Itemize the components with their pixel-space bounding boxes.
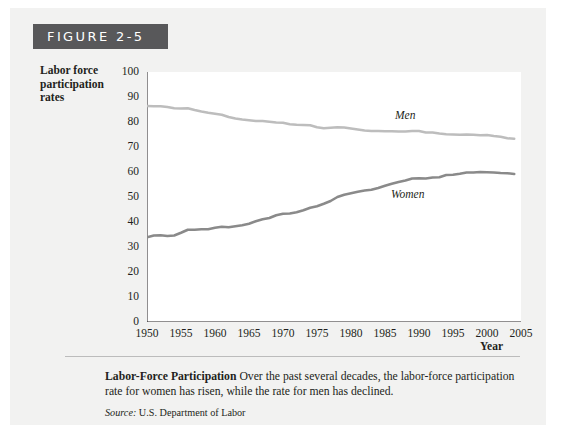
series-label-women: Women [391, 188, 424, 200]
caption-source: Source: U.S. Department of Labor [105, 407, 525, 418]
caption-source-value: U.S. Department of Labor [139, 407, 246, 418]
caption-text: Labor-Force Participation Over the past … [105, 369, 525, 399]
figure-number-label: FIGURE 2-5 [47, 29, 145, 44]
y-tick-label: 100 [105, 65, 139, 77]
y-tick-label: 70 [105, 140, 139, 152]
figure-panel: FIGURE 2-5 Labor force participation rat… [10, 8, 546, 425]
y-tick-label: 20 [105, 265, 139, 277]
y-tick-label: 60 [105, 165, 139, 177]
y-axis-title: Labor force participation rates [40, 64, 112, 105]
y-tick-label: 50 [105, 190, 139, 202]
y-tick-label: 80 [105, 115, 139, 127]
chart-plot-frame [147, 72, 521, 322]
x-tick-label: 2005 [501, 327, 541, 339]
y-tick-label: 40 [105, 215, 139, 227]
y-tick-label: 10 [105, 290, 139, 302]
figure-header-bar: FIGURE 2-5 [33, 24, 168, 49]
y-tick-label: 0 [105, 315, 139, 327]
caption-divider [65, 356, 520, 357]
y-tick-label: 90 [105, 90, 139, 102]
caption-title: Labor-Force Participation [105, 370, 236, 383]
series-label-men: Men [395, 109, 415, 121]
chart-line-series-svg [147, 72, 521, 322]
series-line-women [147, 172, 514, 237]
caption-source-label: Source: [105, 407, 136, 418]
x-axis-title: Year [480, 340, 503, 352]
caption-block: Labor-Force Participation Over the past … [105, 369, 525, 418]
series-line-men [147, 106, 514, 139]
y-tick-label: 30 [105, 240, 139, 252]
